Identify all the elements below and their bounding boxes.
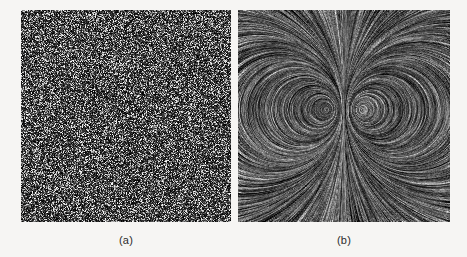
caption-panel-a: (a) (96, 233, 156, 247)
panel-a-noise-image (21, 10, 231, 222)
lic-texture-canvas (238, 10, 450, 222)
noise-texture-canvas (21, 10, 231, 222)
panel-b-lic-image (238, 10, 450, 222)
figure-container: (a) (b) (0, 0, 467, 257)
caption-panel-b: (b) (314, 233, 374, 247)
